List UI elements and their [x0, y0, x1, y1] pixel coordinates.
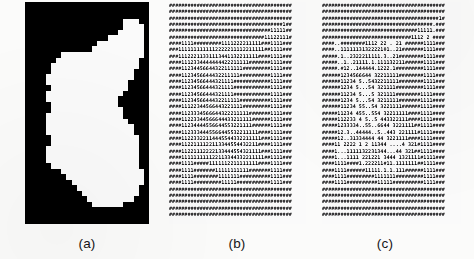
- charmap-row: ########################################: [322, 211, 461, 217]
- caption-a: (a): [57, 236, 117, 251]
- caption-c: (c): [355, 236, 415, 251]
- charmap-row: ########################################: [169, 211, 306, 217]
- charmap-b-content: ########################################…: [169, 2, 306, 217]
- binary-blob-canvas: [25, 2, 149, 224]
- charmap-c-content: ########################################…: [322, 2, 461, 217]
- panel-a-binary-image: [25, 2, 149, 224]
- figure: ########################################…: [0, 0, 474, 259]
- caption-b: (b): [207, 236, 267, 251]
- panel-c-character-map: ########################################…: [322, 2, 461, 224]
- panel-b-character-map: ########################################…: [169, 2, 306, 224]
